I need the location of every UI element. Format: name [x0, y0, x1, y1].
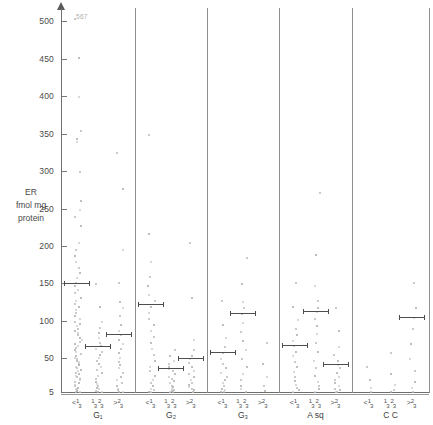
- data-point: [153, 354, 155, 356]
- data-point: [338, 376, 340, 378]
- median-bar: [303, 311, 329, 312]
- data-point: [243, 307, 245, 309]
- data-point: [80, 369, 82, 371]
- data-point: [333, 354, 335, 356]
- median-bar: [282, 345, 308, 346]
- data-point: [295, 282, 297, 284]
- data-point: [148, 134, 150, 136]
- group-label-G₂: G₂: [147, 410, 195, 420]
- data-point: [150, 342, 152, 344]
- data-point: [334, 379, 336, 381]
- data-point: [294, 376, 296, 378]
- data-point: [118, 352, 120, 354]
- data-point: [74, 216, 76, 218]
- data-point: [338, 346, 340, 348]
- y-tick-5: [62, 392, 67, 393]
- data-point: [240, 331, 242, 333]
- data-point: [220, 391, 222, 393]
- data-point: [245, 349, 247, 351]
- data-point: [336, 372, 338, 374]
- data-point: [97, 391, 99, 393]
- y-axis-title-line-3: protein: [2, 212, 60, 225]
- data-point: [149, 276, 151, 278]
- data-point: [339, 367, 341, 369]
- data-point: [246, 257, 248, 259]
- data-point: [152, 379, 154, 381]
- data-point: [319, 192, 321, 194]
- data-point: [295, 351, 297, 353]
- data-point: [78, 364, 80, 366]
- data-point: [79, 272, 81, 274]
- data-point: [76, 367, 78, 369]
- data-point: [122, 188, 124, 190]
- data-point: [154, 360, 156, 362]
- data-point: [150, 306, 152, 308]
- y-tick-label-50: 50: [8, 353, 54, 363]
- data-point: [295, 384, 297, 386]
- data-point: [242, 301, 244, 303]
- data-point: [100, 366, 102, 368]
- data-point: [78, 57, 80, 59]
- data-point: [74, 381, 76, 383]
- median-bar: [178, 358, 204, 359]
- data-point: [188, 373, 190, 375]
- data-point: [410, 343, 412, 345]
- panel-separator-3: [279, 8, 280, 393]
- data-point: [412, 391, 414, 393]
- panel-separator-2: [207, 8, 208, 393]
- data-point: [75, 351, 77, 353]
- data-point: [242, 322, 244, 324]
- y-tick-450: [62, 59, 67, 60]
- data-point: [74, 285, 76, 287]
- data-point: [191, 382, 193, 384]
- data-point: [415, 307, 417, 309]
- y-axis-line: [61, 8, 62, 393]
- data-point: [188, 386, 190, 388]
- median-bar: [85, 346, 111, 347]
- data-point: [118, 330, 120, 332]
- data-point: [293, 371, 295, 373]
- data-point: [80, 225, 82, 227]
- data-point: [168, 363, 170, 365]
- group-label-CC: C C: [367, 410, 415, 420]
- data-point: [226, 376, 228, 378]
- y-tick-200: [62, 246, 67, 247]
- data-point: [193, 370, 195, 372]
- data-point: [95, 283, 97, 285]
- data-point: [79, 379, 81, 381]
- data-point: [191, 366, 193, 368]
- y-axis-title-line-1: ER: [2, 186, 60, 199]
- data-point: [116, 379, 118, 381]
- data-point: [80, 200, 82, 202]
- x-tick-label-Asq-2: >23: [320, 399, 352, 406]
- data-point: [148, 233, 150, 235]
- x-axis-baseline: [61, 394, 429, 395]
- data-point: [292, 391, 294, 393]
- data-point: [119, 301, 121, 303]
- data-point: [153, 336, 155, 338]
- data-point: [148, 312, 150, 314]
- data-point: [414, 381, 416, 383]
- data-point: [292, 306, 294, 308]
- data-point: [78, 242, 80, 244]
- data-point: [338, 330, 340, 332]
- y-tick-400: [62, 96, 67, 97]
- data-point: [122, 372, 124, 374]
- data-point: [150, 388, 152, 390]
- data-point: [152, 385, 154, 387]
- data-point: [295, 328, 297, 330]
- data-point: [77, 370, 79, 372]
- x-tick-label-CC-2: >23: [396, 399, 428, 406]
- data-point: [224, 379, 226, 381]
- data-point: [224, 346, 226, 348]
- data-point: [292, 340, 294, 342]
- data-point: [266, 376, 268, 378]
- data-point: [116, 152, 118, 154]
- data-point: [78, 96, 80, 98]
- data-point: [154, 300, 156, 302]
- data-point: [193, 349, 195, 351]
- data-point: [240, 388, 242, 390]
- data-point: [314, 375, 316, 377]
- data-point: [223, 391, 225, 393]
- x-tick-label-G₃-2: >23: [247, 399, 279, 406]
